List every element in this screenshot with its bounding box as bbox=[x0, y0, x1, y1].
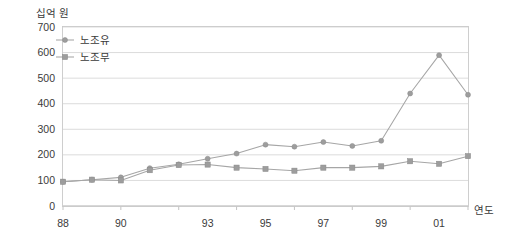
x-axis-tick-labels: 88909395979901 bbox=[57, 217, 445, 229]
data-point-marker bbox=[234, 165, 239, 170]
data-point-marker bbox=[379, 164, 384, 169]
data-point-marker bbox=[147, 168, 152, 173]
x-axis-tick-label: 90 bbox=[115, 217, 127, 229]
y-axis-tick-label: 600 bbox=[37, 46, 55, 58]
data-point-marker bbox=[350, 165, 355, 170]
chart-container: 십억 원 연도 0100200300400500600700 889093959… bbox=[0, 0, 511, 241]
data-point-marker bbox=[263, 166, 268, 171]
data-point-marker bbox=[60, 179, 65, 184]
data-point-marker bbox=[176, 162, 181, 167]
y-axis-tick-label: 500 bbox=[37, 72, 55, 84]
data-point-marker bbox=[408, 91, 413, 96]
data-point-marker bbox=[89, 177, 94, 182]
data-series bbox=[60, 53, 470, 185]
data-point-marker bbox=[379, 138, 384, 143]
data-point-marker bbox=[465, 154, 470, 159]
y-axis-tick-label: 400 bbox=[37, 97, 55, 109]
y-axis-tick-label: 700 bbox=[37, 21, 55, 33]
legend-marker-2 bbox=[62, 54, 67, 59]
legend-marker-1 bbox=[63, 38, 68, 43]
legend-label-2: 노조무 bbox=[80, 51, 110, 63]
y-axis-tick-label: 300 bbox=[37, 123, 55, 135]
legend-label-1: 노조유 bbox=[80, 34, 110, 46]
data-point-marker bbox=[436, 161, 441, 166]
x-axis-tick-label: 93 bbox=[202, 217, 214, 229]
x-axis-tick-label: 97 bbox=[318, 217, 330, 229]
y-axis-tick-labels: 0100200300400500600700 bbox=[37, 21, 55, 212]
data-point-marker bbox=[205, 156, 210, 161]
data-point-marker bbox=[263, 142, 268, 147]
data-point-marker bbox=[234, 151, 239, 156]
data-point-marker bbox=[205, 162, 210, 167]
chart-legend: 노조유노조무 bbox=[56, 34, 110, 63]
x-axis-tick-label: 88 bbox=[57, 217, 69, 229]
data-point-marker bbox=[437, 53, 442, 58]
y-axis-tick-label: 100 bbox=[37, 174, 55, 186]
data-point-marker bbox=[350, 143, 355, 148]
data-point-marker bbox=[292, 168, 297, 173]
data-point-marker bbox=[321, 165, 326, 170]
series-line-1 bbox=[63, 55, 468, 182]
x-axis-tick-label: 99 bbox=[375, 217, 387, 229]
y-axis-title: 십억 원 bbox=[36, 7, 69, 19]
data-point-marker bbox=[321, 140, 326, 145]
data-point-marker bbox=[408, 159, 413, 164]
y-axis-tick-label: 0 bbox=[49, 200, 55, 212]
x-axis-title: 연도 bbox=[474, 204, 494, 216]
data-point-marker bbox=[118, 178, 123, 183]
data-point-marker bbox=[292, 144, 297, 149]
data-point-marker bbox=[466, 92, 471, 97]
y-axis-tick-label: 200 bbox=[37, 148, 55, 160]
x-axis-tick-label: 95 bbox=[260, 217, 272, 229]
x-axis-tick-label: 01 bbox=[433, 217, 445, 229]
line-chart: 십억 원 연도 0100200300400500600700 889093959… bbox=[0, 0, 511, 241]
